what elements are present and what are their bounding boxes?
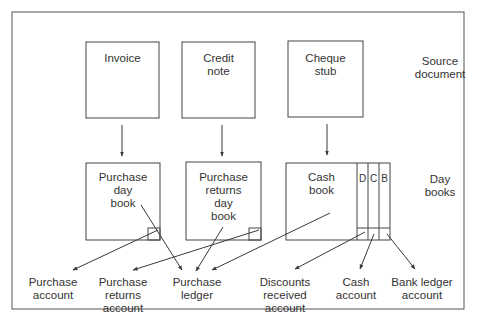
flow-pdb-to-purchase-ledger — [141, 205, 182, 270]
account-purchase-ledger-label: Purchase ledger — [164, 276, 230, 302]
account-purchase-label: Purchase account — [20, 276, 86, 302]
account-discounts-received-label: Discounts received account — [250, 276, 320, 315]
prdb-corner-box — [249, 228, 261, 240]
row-label-day-books: Day books — [410, 173, 470, 199]
cashbook-col-b: B — [379, 172, 390, 185]
daybook-purchase-returns-label: Purchase returns day book — [186, 171, 261, 223]
flow-d-to-discounts-received — [295, 232, 365, 269]
flow-c-to-cash-account — [360, 234, 374, 269]
daybook-cash-label: Cash book — [286, 171, 357, 197]
source-invoice-label: Invoice — [86, 52, 159, 65]
source-credit-note-label: Credit note — [182, 52, 255, 78]
flow-prdb-to-purchase-returns-account — [133, 230, 259, 270]
flow-b-to-bank-ledger — [387, 234, 415, 269]
account-cash-label: Cash account — [326, 276, 386, 302]
daybook-purchase-label: Purchase day book — [86, 171, 160, 210]
cashbook-col-d: D — [357, 172, 368, 185]
cashbook-col-c: C — [368, 172, 379, 185]
row-label-source-document: Source document — [400, 55, 480, 81]
source-cheque-stub-label: Cheque stub — [288, 52, 363, 78]
accounting-flow-diagram: Source document Day books Invoice Credit… — [0, 0, 480, 332]
account-bank-ledger-label: Bank ledger account — [384, 276, 460, 302]
account-purchase-returns-label: Purchase returns account — [90, 276, 156, 315]
